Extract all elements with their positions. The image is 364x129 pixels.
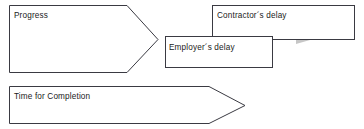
- label-contractors-delay: Contractor´s delay: [217, 11, 287, 21]
- label-time-for-completion: Time for Completion: [14, 92, 90, 102]
- outline-layer: [0, 0, 364, 129]
- label-progress: Progress: [14, 11, 48, 21]
- diagram-canvas: Progress Contractor´s delay Employer´s d…: [0, 0, 364, 129]
- label-employers-delay: Employer´s delay: [169, 43, 235, 53]
